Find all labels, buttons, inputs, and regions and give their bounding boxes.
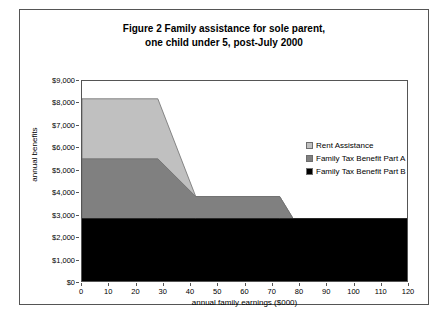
x-axis: 0102030405060708090100110120 xyxy=(81,283,408,297)
y-tick-mark xyxy=(76,80,79,81)
chart-title: Figure 2 Family assistance for sole pare… xyxy=(20,22,428,50)
y-tick-label: $9,000 xyxy=(52,76,75,85)
x-tick-label: 10 xyxy=(104,287,112,296)
y-tick-mark xyxy=(76,125,79,126)
x-tick-label: 30 xyxy=(159,287,167,296)
x-tick-mark xyxy=(408,283,409,286)
x-tick-label: 90 xyxy=(322,287,330,296)
area-chart-svg xyxy=(82,81,407,281)
legend-item-family-tax-benefit-part-b: Family Tax Benefit Part B xyxy=(306,165,426,178)
y-tick-mark xyxy=(76,147,79,148)
y-tick-label: $3,000 xyxy=(52,210,75,219)
y-tick-label: $5,000 xyxy=(52,165,75,174)
x-tick-mark xyxy=(217,283,218,286)
y-axis-title: annual benefits xyxy=(30,110,39,200)
x-tick-label: 20 xyxy=(131,287,139,296)
area-family-tax-benefit-part-b xyxy=(82,219,407,281)
x-tick-mark xyxy=(272,283,273,286)
y-tick-mark xyxy=(76,170,79,171)
legend-swatch-family-tax-benefit-part-b xyxy=(306,168,313,175)
y-tick-label: $6,000 xyxy=(52,143,75,152)
x-tick-mark xyxy=(381,283,382,286)
x-tick-mark xyxy=(163,283,164,286)
y-tick-mark xyxy=(76,102,79,103)
x-tick-label: 50 xyxy=(213,287,221,296)
y-axis: $0$1,000$2,000$3,000$4,000$5,000$6,000$7… xyxy=(36,80,79,282)
x-tick-label: 100 xyxy=(347,287,360,296)
x-tick-label: 60 xyxy=(240,287,248,296)
legend-label-rent-assistance: Rent Assistance xyxy=(316,141,373,150)
legend-item-family-tax-benefit-part-a: Family Tax Benefit Part A xyxy=(306,152,426,165)
x-tick-mark xyxy=(136,283,137,286)
x-tick-label: 70 xyxy=(268,287,276,296)
chart-legend: Rent Assistance Family Tax Benefit Part … xyxy=(306,139,426,178)
y-tick-label: $2,000 xyxy=(52,233,75,242)
y-tick-mark xyxy=(76,282,79,283)
x-tick-label: 0 xyxy=(79,287,83,296)
legend-item-rent-assistance: Rent Assistance xyxy=(306,139,426,152)
legend-label-family-tax-benefit-part-b: Family Tax Benefit Part B xyxy=(316,167,406,176)
y-tick-label: $0 xyxy=(67,278,75,287)
y-tick-mark xyxy=(76,192,79,193)
x-tick-mark xyxy=(245,283,246,286)
y-tick-mark xyxy=(76,215,79,216)
x-tick-label: 80 xyxy=(295,287,303,296)
x-tick-mark xyxy=(326,283,327,286)
plot-area xyxy=(81,80,408,282)
y-tick-label: $8,000 xyxy=(52,98,75,107)
chart-title-line-1: Figure 2 Family assistance for sole pare… xyxy=(20,22,428,36)
y-tick-label: $1,000 xyxy=(52,255,75,264)
x-tick-mark xyxy=(81,283,82,286)
x-tick-mark xyxy=(190,283,191,286)
y-tick-label: $4,000 xyxy=(52,188,75,197)
x-tick-label: 120 xyxy=(402,287,415,296)
figure-frame: Figure 2 Family assistance for sole pare… xyxy=(19,9,429,305)
legend-swatch-rent-assistance xyxy=(306,142,313,149)
x-tick-label: 110 xyxy=(375,287,387,296)
y-tick-label: $7,000 xyxy=(52,120,75,129)
chart-title-line-2: one child under 5, post-July 2000 xyxy=(20,36,428,50)
y-tick-mark xyxy=(76,260,79,261)
x-tick-label: 40 xyxy=(186,287,194,296)
x-tick-mark xyxy=(108,283,109,286)
legend-label-family-tax-benefit-part-a: Family Tax Benefit Part A xyxy=(316,154,405,163)
x-tick-mark xyxy=(354,283,355,286)
x-axis-title: annual family earnings ($000) xyxy=(81,298,408,307)
legend-swatch-family-tax-benefit-part-a xyxy=(306,155,313,162)
x-tick-mark xyxy=(299,283,300,286)
y-tick-mark xyxy=(76,237,79,238)
